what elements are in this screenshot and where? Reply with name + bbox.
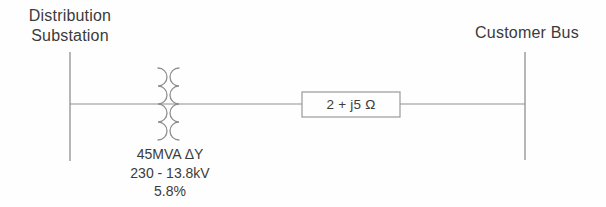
- transformer-impedance-label: 5.8%: [130, 182, 209, 201]
- impedance-label: 2 + j5 Ω: [327, 97, 376, 112]
- customer-bus-label: Customer Bus: [475, 23, 579, 43]
- source-label-line2: Substation: [29, 26, 111, 46]
- transformer-rating-label: 45MVA ΔY: [130, 145, 209, 164]
- source-label-line1: Distribution: [29, 6, 111, 26]
- distribution-substation-label: Distribution Substation: [29, 6, 111, 46]
- one-line-diagram: Distribution Substation Customer Bus 45M…: [0, 0, 606, 207]
- transformer-voltage-label: 230 - 13.8kV: [130, 164, 209, 183]
- transformer-labels: 45MVA ΔY 230 - 13.8kV 5.8%: [130, 145, 209, 201]
- impedance-label-container: 2 + j5 Ω: [302, 92, 400, 117]
